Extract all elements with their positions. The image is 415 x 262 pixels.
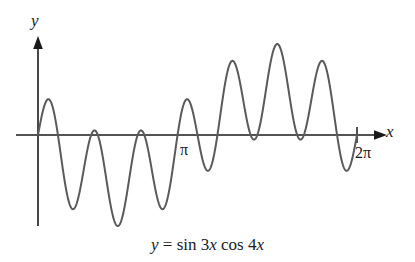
plot-canvas xyxy=(0,0,415,262)
x-axis xyxy=(16,130,387,140)
y-axis-label: y xyxy=(31,12,39,29)
caption-var-2: x xyxy=(256,235,264,254)
figure-caption: y = sin 3x cos 4x xyxy=(0,236,415,255)
caption-mid: cos 4 xyxy=(217,235,257,254)
function-plot-figure: y x π 2π y = sin 3x cos 4x xyxy=(0,0,415,262)
x-axis-label: x xyxy=(386,123,394,140)
caption-equals: = sin 3 xyxy=(159,235,210,254)
caption-lhs: y xyxy=(151,235,159,254)
x-tick-label-pi: π xyxy=(180,142,188,158)
y-axis-arrowhead xyxy=(33,36,43,49)
x-tick-label-2pi: 2π xyxy=(355,145,371,161)
caption-var-1: x xyxy=(209,235,217,254)
